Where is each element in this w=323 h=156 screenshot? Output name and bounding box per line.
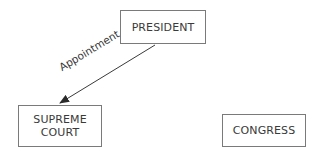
- president-node-label: PRESIDENT: [132, 21, 195, 34]
- supreme-court-node: SUPREME COURT: [18, 105, 102, 147]
- appointment-edge-label: Appointment: [57, 28, 122, 73]
- president-node: PRESIDENT: [120, 10, 206, 44]
- supreme-court-node-label: SUPREME COURT: [33, 113, 86, 139]
- congress-node: CONGRESS: [222, 114, 306, 147]
- congress-node-label: CONGRESS: [233, 124, 295, 137]
